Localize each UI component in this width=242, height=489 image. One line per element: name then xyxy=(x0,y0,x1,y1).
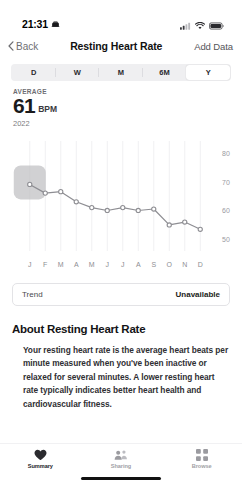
trend-card[interactable]: Trend Unavailable xyxy=(12,283,230,306)
segment-month[interactable]: M xyxy=(99,65,143,80)
trend-label: Trend xyxy=(22,290,43,299)
segment-year[interactable]: Y xyxy=(186,65,230,80)
status-bar: 21:31 xyxy=(0,0,242,34)
chart-data-point xyxy=(90,205,94,209)
average-value-row: 61 BPM xyxy=(13,96,242,116)
chart-line-series xyxy=(30,184,201,229)
alarm-icon xyxy=(51,20,60,29)
x-axis-tick-label: J xyxy=(121,261,125,268)
status-bar-right xyxy=(180,22,224,30)
chart-data-point xyxy=(28,182,32,186)
wifi-icon xyxy=(195,22,205,30)
chart-data-point xyxy=(43,191,47,195)
summary-period: 2022 xyxy=(13,119,242,128)
chart-data-point xyxy=(121,205,125,209)
about-body-text: Your resting heart rate is the average h… xyxy=(12,344,230,411)
x-axis-tick-label: J xyxy=(106,261,110,268)
x-axis-tick-label: S xyxy=(151,261,156,268)
page-title: Resting Heart Rate xyxy=(70,40,162,52)
time-range-segmented-control[interactable]: D W M 6M Y xyxy=(11,64,231,81)
tab-browse-label: Browse xyxy=(192,463,212,469)
grid-icon xyxy=(196,449,208,461)
status-bar-clock: 21:31 xyxy=(22,18,48,30)
x-axis-tick-label: F xyxy=(43,261,47,268)
y-axis-tick-label: 70 xyxy=(222,178,230,185)
add-data-button[interactable]: Add Data xyxy=(194,41,233,52)
y-axis-tick-label: 60 xyxy=(222,207,230,214)
chart-data-point xyxy=(167,223,171,227)
chevron-left-icon xyxy=(8,41,14,51)
x-axis-tick-label: D xyxy=(198,261,203,268)
x-axis-tick-label: A xyxy=(74,261,79,268)
navigation-bar: Back Resting Heart Rate Add Data xyxy=(0,34,242,58)
back-button[interactable]: Back xyxy=(8,41,38,52)
heart-icon xyxy=(34,449,47,461)
average-summary: AVERAGE 61 BPM 2022 xyxy=(0,81,242,128)
segment-week[interactable]: W xyxy=(56,65,100,80)
average-value: 61 xyxy=(13,96,35,116)
tab-summary[interactable]: Summary xyxy=(0,449,81,469)
resting-heart-rate-chart[interactable]: 80706050JFMAMJJASOND xyxy=(0,133,242,273)
cellular-signal-icon xyxy=(180,22,191,30)
chart-data-point xyxy=(152,207,156,211)
chart-data-point xyxy=(74,200,78,204)
tab-sharing[interactable]: Sharing xyxy=(81,449,162,469)
y-axis-tick-label: 80 xyxy=(222,150,230,157)
tab-browse[interactable]: Browse xyxy=(161,449,242,469)
about-section: About Resting Heart Rate Your resting he… xyxy=(12,323,230,411)
segment-six-month[interactable]: 6M xyxy=(143,65,187,80)
about-title: About Resting Heart Rate xyxy=(12,323,230,335)
x-axis-tick-label: N xyxy=(182,261,187,268)
status-bar-left: 21:31 xyxy=(22,18,60,30)
x-axis-tick-label: A xyxy=(136,261,141,268)
chart-data-point xyxy=(105,208,109,212)
x-axis-tick-label: M xyxy=(58,261,64,268)
chart-data-point xyxy=(183,220,187,224)
people-icon xyxy=(114,449,128,461)
back-button-label: Back xyxy=(16,41,38,52)
chart-data-point xyxy=(198,227,202,231)
tab-summary-label: Summary xyxy=(28,463,53,469)
average-unit: BPM xyxy=(38,104,57,116)
chart-data-point xyxy=(136,208,140,212)
y-axis-tick-label: 50 xyxy=(222,236,230,243)
tab-bar: Summary Sharing Browse xyxy=(0,443,242,489)
battery-icon xyxy=(209,22,224,30)
average-label: AVERAGE xyxy=(13,88,242,95)
trend-status-value: Unavailable xyxy=(176,290,220,299)
chart-canvas[interactable]: 80706050JFMAMJJASOND xyxy=(0,133,242,273)
chart-data-point xyxy=(59,189,63,193)
x-axis-tick-label: M xyxy=(89,261,95,268)
x-axis-tick-label: O xyxy=(167,261,173,268)
home-indicator xyxy=(81,477,161,480)
segment-day[interactable]: D xyxy=(12,65,56,80)
tab-sharing-label: Sharing xyxy=(111,463,131,469)
time-range-selector-wrap: D W M 6M Y xyxy=(0,58,242,81)
x-axis-tick-label: J xyxy=(28,261,32,268)
